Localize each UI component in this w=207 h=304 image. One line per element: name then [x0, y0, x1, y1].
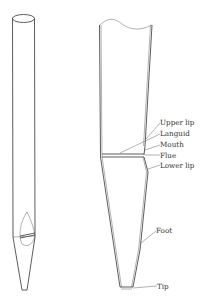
- label-tip: Tip: [157, 282, 169, 291]
- whole-pipe-figure: [13, 15, 36, 291]
- label-lower-lip: Lower lip: [160, 161, 195, 170]
- label-foot: Foot: [156, 226, 172, 235]
- label-mouth: Mouth: [160, 140, 184, 149]
- pipe-detail-figure: [100, 19, 153, 289]
- label-upper-lip: Upper lip: [160, 118, 195, 127]
- label-flue: Flue: [160, 151, 176, 160]
- label-languid: Languid: [160, 129, 190, 138]
- labels: Upper lip Languid Mouth Flue Lower lip F…: [156, 118, 195, 291]
- pipe-diagram: Upper lip Languid Mouth Flue Lower lip F…: [0, 0, 207, 304]
- leader-lines: [120, 123, 160, 288]
